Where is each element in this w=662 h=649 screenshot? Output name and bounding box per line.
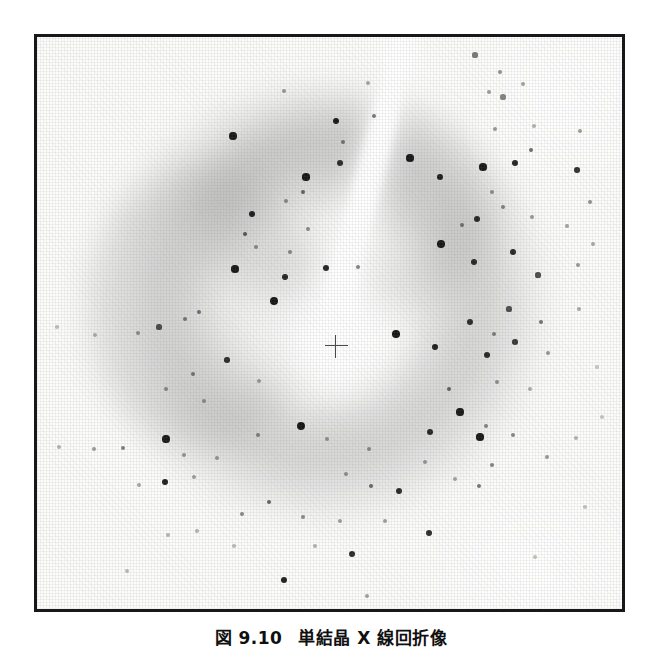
diffuse-halo-left <box>77 157 327 457</box>
crosshair-horizontal-bar <box>325 345 348 347</box>
diffraction-spot <box>164 387 168 391</box>
diffraction-spot <box>501 205 505 209</box>
diffraction-spot <box>162 479 169 486</box>
diffraction-spot <box>121 446 125 450</box>
diffraction-spot <box>301 515 305 519</box>
diffraction-spot <box>338 519 342 523</box>
beam-streak-band <box>310 37 415 357</box>
diffraction-spot <box>512 339 518 345</box>
diffraction-spot <box>341 140 345 144</box>
diffraction-spot <box>166 533 170 537</box>
diffraction-spot <box>313 544 317 548</box>
diffraction-spot <box>591 242 595 246</box>
diffraction-spot <box>229 132 236 139</box>
film-highlight-bottom-right <box>412 459 622 609</box>
diffraction-spot <box>136 331 140 335</box>
diffraction-spot <box>92 447 96 451</box>
diffraction-spot <box>565 224 569 228</box>
diffraction-spot <box>191 372 195 376</box>
diffraction-spot <box>270 297 278 305</box>
beam-streak-band <box>319 37 411 357</box>
diffraction-spot <box>510 249 516 255</box>
diffraction-spot <box>284 199 288 203</box>
central-glow <box>237 242 422 422</box>
diffraction-spot <box>576 263 580 267</box>
diffraction-spot <box>267 500 272 505</box>
beam-streak-band <box>295 37 423 357</box>
diffraction-spot <box>282 274 288 280</box>
diffraction-spot <box>344 472 348 476</box>
diffraction-spot <box>460 223 464 227</box>
diffraction-spot <box>427 429 433 435</box>
diffraction-spot <box>282 89 286 93</box>
diffraction-spot <box>577 307 581 311</box>
diffraction-spot <box>495 380 499 384</box>
diffraction-spot <box>182 453 186 457</box>
diffraction-spot <box>162 435 169 442</box>
diffraction-spot <box>437 174 444 181</box>
diffraction-spot <box>197 310 201 314</box>
diffraction-spot <box>447 387 452 392</box>
figure-caption-number: 図 9.10 <box>215 628 283 648</box>
diffraction-spot <box>257 379 261 383</box>
diffraction-spot <box>453 477 457 481</box>
diffraction-spot <box>484 424 488 428</box>
diffraction-spot <box>224 357 230 363</box>
diffraction-spot <box>595 365 599 369</box>
beam-center-crosshair <box>325 335 348 358</box>
diffraction-spot <box>535 272 540 277</box>
diffraction-spot <box>369 484 374 489</box>
diffraction-spot <box>396 488 402 494</box>
diffraction-spot <box>297 422 305 430</box>
diffraction-spot <box>240 512 244 516</box>
diffraction-spot <box>471 259 477 265</box>
diffraction-spot <box>125 569 129 573</box>
diffraction-spot <box>372 114 377 119</box>
diffraction-spot <box>325 437 329 441</box>
diffraction-spot <box>243 232 248 237</box>
diffraction-spot <box>55 325 59 329</box>
diffraction-spot <box>392 330 400 338</box>
diffraction-spot <box>195 529 199 533</box>
diffraction-spot <box>137 483 141 487</box>
diffraction-spot <box>406 154 413 161</box>
diffraction-spot <box>231 265 238 272</box>
diffraction-spot <box>530 215 534 219</box>
diffraction-spot <box>423 460 427 464</box>
diffraction-spot <box>333 118 340 125</box>
diffraction-spot <box>511 433 515 437</box>
diffraction-spot <box>306 227 310 231</box>
crosshair-vertical-bar <box>335 335 337 358</box>
diffraction-plate-frame <box>34 34 625 612</box>
diffraction-spot <box>57 445 61 449</box>
diffraction-spot <box>249 211 256 218</box>
diffraction-spot <box>574 436 578 440</box>
diffraction-spot <box>367 447 371 451</box>
diffraction-spot <box>349 551 355 557</box>
diffraction-spot <box>323 265 329 271</box>
diffraction-spot <box>93 333 97 337</box>
diffraction-spot <box>288 250 292 254</box>
diffraction-spot <box>232 544 236 548</box>
diffraction-spot <box>215 456 219 460</box>
diffraction-spot <box>183 317 187 321</box>
diffraction-film <box>37 37 622 609</box>
figure-caption: 図 9.10単結晶 X 線回折像 <box>0 628 662 649</box>
diffraction-spot <box>437 240 445 248</box>
diffraction-spot <box>492 332 496 336</box>
diffraction-spot <box>301 190 306 195</box>
diffraction-spot <box>383 519 387 523</box>
figure-caption-title: 単結晶 X 線回折像 <box>298 628 447 648</box>
diffraction-spot <box>476 433 483 440</box>
diffraction-spot <box>356 265 360 269</box>
figure-page: 図 9.10単結晶 X 線回折像 <box>0 0 662 649</box>
diffraction-spot <box>467 319 473 325</box>
diffraction-spot <box>432 344 439 351</box>
diffraction-spot <box>365 594 369 598</box>
diffraction-spot <box>528 387 532 391</box>
diffraction-spot <box>474 216 480 222</box>
diffraction-spot <box>337 160 343 166</box>
diffraction-spot <box>484 352 490 358</box>
diffraction-spot <box>254 245 258 249</box>
diffraction-spot <box>490 190 494 194</box>
